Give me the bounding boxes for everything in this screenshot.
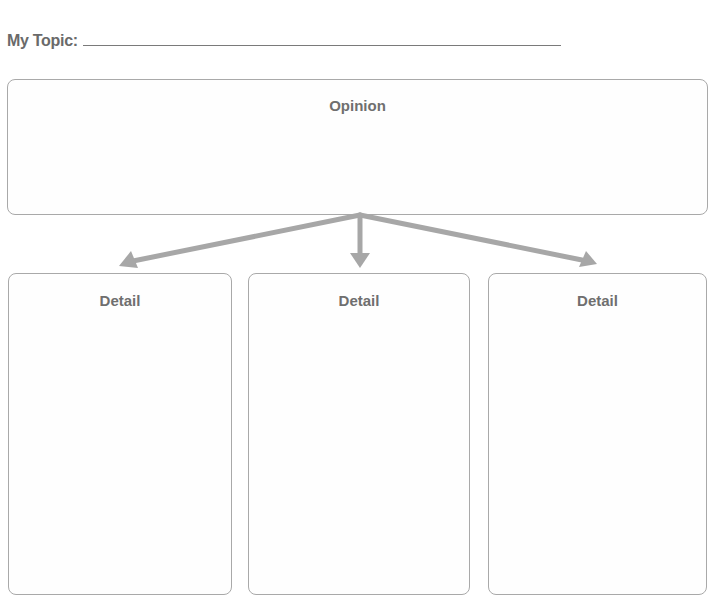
arrow-left-shaft (133, 215, 360, 261)
detail-box-title: Detail (249, 292, 469, 309)
detail-box-title: Detail (489, 292, 706, 309)
arrowhead-center-icon (350, 253, 370, 268)
detail-box-2[interactable]: Detail (248, 273, 470, 595)
detail-box-1[interactable]: Detail (8, 273, 232, 595)
detail-box-title: Detail (9, 292, 231, 309)
arrow-right-shaft (360, 215, 582, 260)
detail-box-3[interactable]: Detail (488, 273, 707, 595)
